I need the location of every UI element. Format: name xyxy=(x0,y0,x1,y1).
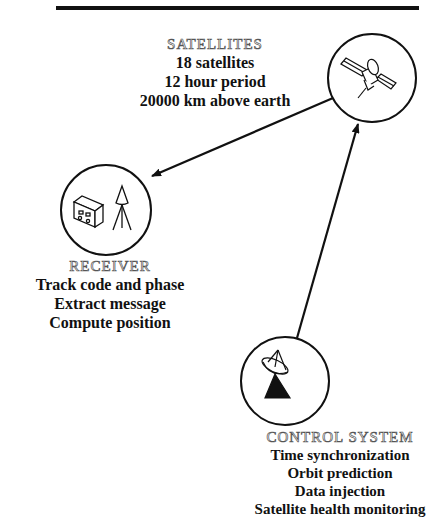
control-system-line: Data injection xyxy=(240,482,440,500)
receiver-line: Compute position xyxy=(10,313,210,332)
control-node xyxy=(241,337,329,425)
receiver-line: Extract message xyxy=(10,294,210,313)
satellites-line: 20000 km above earth xyxy=(130,91,300,110)
control-system-heading: CONTROL SYSTEM xyxy=(240,428,440,446)
satellites-line: 12 hour period xyxy=(130,72,300,91)
receiver-node xyxy=(61,165,151,255)
control-system-line: Satellite health monitoring xyxy=(240,500,440,518)
satellites-label-block: SATELLITES 18 satellites 12 hour period … xyxy=(130,35,300,110)
satellites-heading: SATELLITES xyxy=(130,35,300,53)
control-system-line: Orbit prediction xyxy=(240,464,440,482)
arrow-control-to-satellite xyxy=(297,124,358,338)
receiver-line: Track code and phase xyxy=(10,275,210,294)
control-system-line: Time synchronization xyxy=(240,446,440,464)
receiver-label-block: RECEIVER Track code and phase Extract me… xyxy=(10,257,210,332)
control-system-label-block: CONTROL SYSTEM Time synchronization Orbi… xyxy=(240,428,440,518)
satellite-icon xyxy=(341,58,396,98)
receiver-antenna-icon xyxy=(74,186,131,230)
receiver-heading: RECEIVER xyxy=(10,257,210,275)
dish-antenna-icon xyxy=(260,350,290,398)
satellites-line: 18 satellites xyxy=(130,53,300,72)
satellite-node xyxy=(328,34,416,122)
